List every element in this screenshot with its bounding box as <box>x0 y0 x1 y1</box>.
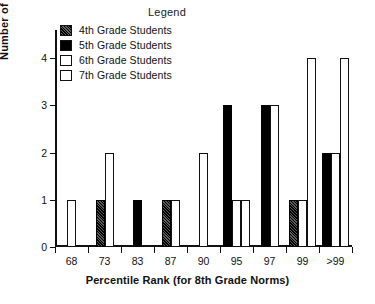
x-tick-label: 83 <box>132 255 144 267</box>
x-tick <box>154 247 155 253</box>
x-tick-label: 99 <box>297 255 309 267</box>
bar-g6-68 <box>67 200 76 247</box>
x-tick <box>88 247 89 253</box>
bar-g7-95 <box>241 200 250 247</box>
bar-g6->99 <box>331 153 340 247</box>
plot-area: 01234 6873838790959799>99 <box>55 30 352 247</box>
x-tick-label: 87 <box>165 255 177 267</box>
x-axis-title: Percentile Rank (for 8th Grade Norms) <box>0 274 375 286</box>
y-tick-label: 2 <box>33 147 47 159</box>
bar-g5-97 <box>261 105 270 247</box>
y-tick <box>50 58 55 59</box>
x-tick <box>55 247 56 253</box>
y-tick <box>50 153 55 154</box>
bar-g5-95 <box>223 105 232 247</box>
x-tick-label: 73 <box>99 255 111 267</box>
y-tick <box>50 105 55 106</box>
bar-g4-99 <box>289 200 298 247</box>
y-axis-title: Number of Students <box>0 0 10 60</box>
x-tick <box>286 247 287 253</box>
bar-chart: Legend 4th Grade Students 5th Grade Stud… <box>0 0 375 304</box>
x-tick <box>121 247 122 253</box>
y-tick <box>50 200 55 201</box>
x-tick-label: 68 <box>66 255 78 267</box>
y-axis-line <box>55 30 57 247</box>
bar-g6-97 <box>270 105 279 247</box>
legend-title: Legend <box>94 6 240 18</box>
x-tick-label: 95 <box>231 255 243 267</box>
bar-g5-83 <box>133 200 142 247</box>
x-tick <box>352 247 353 253</box>
bar-g6-73 <box>105 153 114 247</box>
bar-g6-95 <box>232 200 241 247</box>
x-tick-label: >99 <box>327 255 345 267</box>
bar-g6-99 <box>298 200 307 247</box>
y-tick-label: 1 <box>33 194 47 206</box>
x-tick <box>187 247 188 253</box>
bar-g4-73 <box>96 200 105 247</box>
bar-g7-99 <box>307 58 316 247</box>
x-tick <box>319 247 320 253</box>
x-tick-label: 97 <box>264 255 276 267</box>
bar-g6-90 <box>199 153 208 247</box>
bar-g4-87 <box>162 200 171 247</box>
bar-g6-87 <box>171 200 180 247</box>
y-tick-label: 3 <box>33 99 47 111</box>
y-tick-label: 0 <box>33 241 47 253</box>
x-tick <box>220 247 221 253</box>
x-tick <box>253 247 254 253</box>
y-tick-label: 4 <box>33 52 47 64</box>
bar-g7->99 <box>340 58 349 247</box>
bar-g5->99 <box>322 153 331 247</box>
x-tick-label: 90 <box>198 255 210 267</box>
